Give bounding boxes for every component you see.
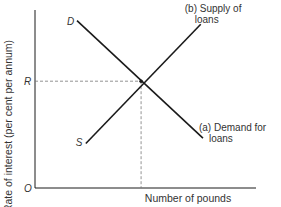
demand-curve — [77, 21, 203, 138]
origin-label: O — [24, 183, 32, 194]
supply-curve-label: (b) Supply of — [185, 3, 242, 14]
supply-start-label: S — [76, 137, 83, 148]
equilibrium-point — [139, 79, 143, 83]
demand-start-label: D — [67, 16, 74, 27]
demand-curve-label: loans — [209, 133, 233, 144]
x-axis-label: Number of pounds — [145, 192, 231, 204]
supply-curve — [86, 24, 201, 143]
supply-curve-label: loans — [195, 14, 219, 25]
y-axis-label: Rate of interest (per cent per annum) — [2, 40, 14, 207]
loan-market-diagram: D(a) Demand forloansS(b) Supply ofloans … — [0, 0, 281, 207]
demand-curve-label: (a) Demand for — [199, 122, 267, 133]
equilibrium-rate-label: R — [24, 76, 31, 87]
